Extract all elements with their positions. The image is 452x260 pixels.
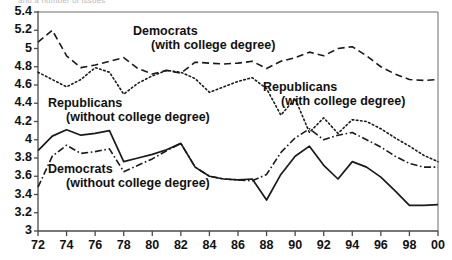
annotation-line-1: Democrats xyxy=(133,24,198,38)
y-axis-tick-label: 3.4 xyxy=(0,187,32,201)
annotation-line-1: Democrats xyxy=(48,162,113,176)
y-axis-tick-label: 3.6 xyxy=(0,168,32,182)
y-axis-tick-label: 5.2 xyxy=(0,22,32,36)
annotation-republicans-without-college: Republicans (without college degree) xyxy=(48,96,210,124)
y-axis-tick-label: 4 xyxy=(0,132,32,146)
x-axis-tick-label: 88 xyxy=(254,238,280,252)
annotation-line-1: Republicans xyxy=(263,80,337,94)
x-axis-tick-label: 86 xyxy=(225,238,251,252)
x-axis-tick-label: 74 xyxy=(54,238,80,252)
x-axis-tick-label: 94 xyxy=(339,238,365,252)
x-axis-tick-label: 96 xyxy=(368,238,394,252)
x-axis-tick-label: 80 xyxy=(139,238,165,252)
chart-figure: and a number of issues 5.45.254.84.64.44… xyxy=(0,0,452,260)
y-axis-tick-label: 3 xyxy=(0,223,32,237)
y-axis-tick-label: 4.4 xyxy=(0,95,32,109)
x-axis-tick-label: 84 xyxy=(196,238,222,252)
annotation-line-2: (without college degree) xyxy=(66,110,210,124)
y-axis-tick-label: 4.8 xyxy=(0,59,32,73)
annotation-republicans-with-college: Republicans (with college degree) xyxy=(263,80,405,108)
y-axis-tick-label: 5.4 xyxy=(0,4,32,18)
x-axis-tick-label: 82 xyxy=(168,238,194,252)
y-axis-tick-label: 5 xyxy=(0,41,32,55)
annotation-line-2: (with college degree) xyxy=(281,94,405,108)
annotation-democrats-without-college: Democrats (without college degree) xyxy=(48,162,210,190)
annotation-democrats-with-college: Democrats (with college degree) xyxy=(133,24,275,52)
y-axis-tick-label: 3.2 xyxy=(0,205,32,219)
x-axis-tick-label: 00 xyxy=(425,238,451,252)
x-axis-tick-label: 90 xyxy=(282,238,308,252)
y-axis-tick-label: 4.6 xyxy=(0,77,32,91)
x-axis-tick-label: 76 xyxy=(82,238,108,252)
x-axis-tick-label: 72 xyxy=(25,238,51,252)
y-axis-tick-label: 4.2 xyxy=(0,114,32,128)
annotation-line-1: Republicans xyxy=(48,96,122,110)
x-axis-tick-label: 98 xyxy=(396,238,422,252)
x-axis-tick-label: 92 xyxy=(311,238,337,252)
annotation-line-2: (with college degree) xyxy=(151,38,275,52)
y-axis-tick-label: 3.8 xyxy=(0,150,32,164)
annotation-line-2: (without college degree) xyxy=(66,176,210,190)
x-axis-tick-label: 78 xyxy=(111,238,137,252)
